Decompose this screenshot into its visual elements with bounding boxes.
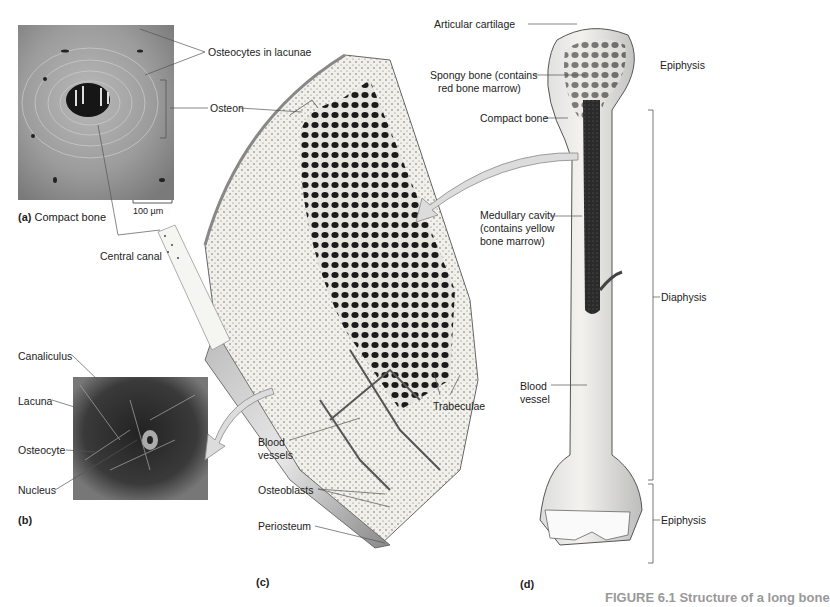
label-osteocytes-in-lacunae: Osteocytes in lacunae (208, 46, 311, 59)
label-periosteum: Periosteum (258, 520, 311, 533)
panel-title-a: Compact bone (35, 211, 107, 223)
label-blood-vessel-line2: vessel (520, 393, 550, 406)
label-blood-vessels-line2: vessels (258, 449, 293, 462)
label-blood-vessel-line1: Blood (520, 380, 547, 393)
label-osteocyte: Osteocyte (18, 444, 65, 457)
long-bone-illustration (540, 29, 653, 563)
label-nucleus: Nucleus (18, 484, 56, 497)
label-blood-vessels-line1: Blood (258, 436, 285, 449)
label-canaliculus: Canaliculus (18, 350, 72, 363)
label-osteon: Osteon (210, 102, 244, 115)
panel-label-c: (c) (256, 576, 269, 588)
label-medullary-line2: (contains yellow (480, 222, 555, 235)
label-osteoblasts: Osteoblasts (258, 484, 313, 497)
label-diaphysis: Diaphysis (661, 291, 707, 304)
label-epiphysis-bottom: Epiphysis (661, 514, 706, 527)
scale-bar-label: 100 µm (133, 205, 163, 218)
label-central-canal: Central canal (100, 250, 162, 263)
panel-letter-a: (a) (18, 211, 31, 223)
sem-photo-osteocyte (73, 377, 208, 500)
label-compact-bone: Compact bone (480, 112, 548, 125)
label-lacuna: Lacuna (18, 395, 52, 408)
label-medullary-line3: bone marrow) (480, 235, 545, 248)
panel-label-a: (a) Compact bone (18, 211, 106, 223)
panel-label-d: (d) (520, 578, 534, 590)
label-spongy-bone-line1: Spongy bone (contains (430, 69, 537, 82)
label-trabeculae: Trabeculae (433, 400, 485, 413)
sem-photo-compact-bone (18, 25, 174, 203)
label-epiphysis-top: Epiphysis (660, 59, 705, 72)
label-articular-cartilage: Articular cartilage (434, 18, 515, 31)
label-spongy-bone-line2: red bone marrow) (438, 82, 521, 95)
label-medullary-line1: Medullary cavity (480, 209, 555, 222)
figure-caption: FIGURE 6.1 Structure of a long bone (605, 590, 830, 605)
panel-label-b: (b) (18, 514, 32, 526)
